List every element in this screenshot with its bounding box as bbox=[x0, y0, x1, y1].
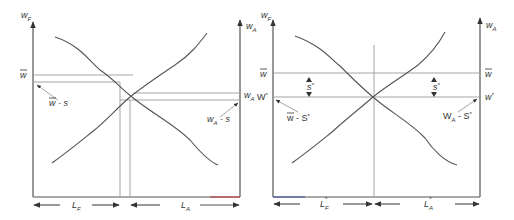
right-lf-label: LF* bbox=[320, 196, 329, 211]
right-annot-arrow-1 bbox=[276, 100, 298, 112]
right-diagram: s* s* wF wA w w W* w* w - S* WA - S* LF*… bbox=[257, 10, 497, 211]
right-la-label: LA* bbox=[424, 196, 433, 211]
right-wstar-right-label: w* bbox=[485, 92, 495, 102]
left-wa-label: wA bbox=[244, 90, 255, 102]
right-wbar-minus-s-label: w - S* bbox=[286, 113, 311, 123]
left-demand-curve-a bbox=[52, 33, 207, 163]
right-y-label-f: wF bbox=[261, 10, 272, 22]
left-y-label-a: wA bbox=[246, 21, 257, 33]
right-gap-right-down-icon bbox=[431, 92, 437, 97]
left-diagram: wF wA w w - s wA wA - s LF LA bbox=[20, 10, 257, 212]
left-la-label: LA bbox=[181, 200, 190, 212]
right-gap-right-label: s* bbox=[433, 82, 441, 92]
right-gap-left-down-icon bbox=[306, 92, 312, 97]
left-wa-minus-s-label: wA - s bbox=[207, 114, 231, 126]
right-gap-left-label: s* bbox=[307, 82, 315, 92]
left-lf-label: LF bbox=[72, 200, 81, 212]
right-y-label-a: wA bbox=[486, 20, 497, 32]
right-wbar-left-label: w bbox=[260, 69, 267, 79]
right-wstar-left-label: W* bbox=[257, 92, 269, 102]
left-demand-curve-f bbox=[55, 37, 218, 165]
labor-market-diagrams: wF wA w w - s wA wA - s LF LA s* s* bbox=[0, 0, 514, 220]
left-wbar-minus-s-label: w - s bbox=[49, 98, 68, 108]
right-wa-minus-s-label: WA - S* bbox=[443, 111, 473, 123]
right-demand-curve-a bbox=[292, 32, 445, 163]
right-demand-curve-f bbox=[295, 36, 457, 165]
right-wbar-right-label: w bbox=[485, 69, 492, 79]
left-y-label-f: wF bbox=[21, 10, 32, 22]
left-wbar-label: w bbox=[20, 70, 27, 80]
